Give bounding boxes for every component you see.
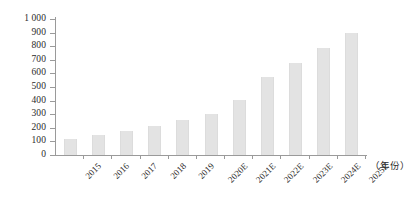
y-tick-label: 600 [0,66,46,78]
bar [148,126,161,155]
x-tick-label: 2022E [282,161,306,185]
bar [233,100,246,155]
bar [317,48,330,155]
x-tick-mark [168,155,169,159]
x-tick-mark [140,155,141,159]
x-axis-line [55,155,367,156]
bar [289,63,302,155]
x-tick-label: 2018 [168,161,188,181]
x-tick-label: 2017 [140,161,160,181]
y-tick-mark [50,155,55,156]
x-tick-mark [111,155,112,159]
bar [205,114,218,155]
bar [176,120,189,155]
x-tick-mark [83,155,84,159]
x-tick-mark [309,155,310,159]
bar-chart: 01002003004005006007008009001 000 201520… [0,0,415,199]
y-tick-label: 200 [0,121,46,133]
y-tick-label: 700 [0,53,46,65]
x-tick-mark [252,155,253,159]
x-axis-caption: （年份） [370,160,410,172]
y-tick-label: 400 [0,94,46,106]
x-tick-label: 2016 [112,161,132,181]
x-tick-mark [337,155,338,159]
x-tick-label: 2020E [226,161,250,185]
x-tick-label: 2024E [339,161,363,185]
bar [261,77,274,155]
bars-layer [55,19,365,155]
y-tick-label: 0 [0,148,46,160]
y-tick-label: 800 [0,39,46,51]
x-tick-label: 2023E [310,161,334,185]
x-tick-label: 2021E [254,161,278,185]
x-tick-mark [224,155,225,159]
bar [345,33,358,155]
x-tick-label: 2019 [196,161,216,181]
bar [120,131,133,155]
y-tick-label: 100 [0,134,46,146]
bar [64,139,77,155]
y-tick-label: 300 [0,107,46,119]
y-tick-label: 900 [0,26,46,38]
y-tick-label: 1 000 [0,12,46,24]
y-tick-label: 500 [0,80,46,92]
x-tick-label: 2015 [83,161,103,181]
x-tick-mark [365,155,366,159]
x-tick-mark [196,155,197,159]
x-tick-mark [280,155,281,159]
bar [92,135,105,155]
